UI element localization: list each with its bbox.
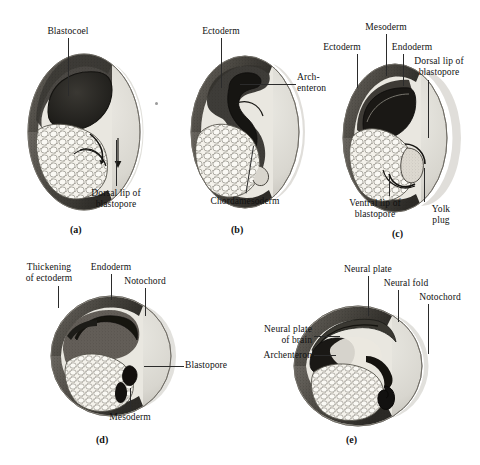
- leader-d-blastopore: [144, 366, 184, 367]
- leader-e-archenteron: [314, 355, 336, 356]
- leader-a-blastocoel: [68, 38, 69, 96]
- label-c-dorsal-lip: Dorsal lip of blastopore: [400, 56, 478, 77]
- embryo-drawing-e: [288, 302, 433, 432]
- leader-d-mesoderm: [130, 388, 131, 410]
- label-a-blastocoel: Blastocoel: [28, 26, 108, 37]
- label-d-endoderm: Endoderm: [80, 262, 142, 273]
- leader-e-neural-fold: [398, 290, 399, 322]
- panel-letter-a: (a): [70, 224, 82, 235]
- label-d-thickening-ectoderm: Thickening of ectoderm: [10, 262, 88, 283]
- label-c-endoderm: Endoderm: [383, 42, 441, 53]
- leader-b-ectoderm: [221, 38, 222, 88]
- leader-c-ectoderm: [357, 54, 358, 88]
- leader-c-mesoderm: [386, 34, 387, 76]
- leader-e-neural-plate: [368, 276, 369, 316]
- scan-artifact-dot: [155, 102, 158, 105]
- label-a-dorsal-lip: Dorsal lip of blastopore: [70, 188, 162, 209]
- panel-letter-d: (d): [96, 434, 108, 445]
- gastrulation-figure: Blastocoel Dorsal lip of blastopore (a): [0, 0, 480, 465]
- panel-letter-e: (e): [346, 434, 357, 445]
- panel-letter-b: (b): [231, 224, 243, 235]
- label-e-neural-plate-of-brain: Neural plate of brain: [230, 324, 312, 345]
- label-b-ectoderm: Ectoderm: [185, 26, 257, 37]
- label-c-ectoderm: Ectoderm: [313, 42, 371, 53]
- leader-a-dorsal-lip: [116, 140, 117, 186]
- label-e-notochord: Notochord: [406, 292, 474, 303]
- panel-letter-c: (c): [392, 228, 403, 239]
- label-c-mesoderm: Mesoderm: [355, 22, 417, 33]
- leader-d-notochord: [145, 288, 146, 316]
- label-e-neural-fold: Neural fold: [370, 278, 442, 289]
- leader-c-dorsal-lip: [428, 80, 429, 138]
- leader-b-archenteron: [240, 84, 296, 85]
- leader-d-thickening-ectoderm: [58, 286, 59, 308]
- leader-c-yolk-plug: [424, 168, 425, 202]
- embryo-drawing-c: [337, 58, 462, 218]
- leader-e-neural-plate-of-brain: [314, 336, 340, 337]
- label-e-neural-plate: Neural plate: [330, 264, 406, 275]
- embryo-drawing-b: [185, 48, 310, 213]
- label-d-blastopore: Blastopore: [185, 360, 247, 371]
- leader-c-ventral-lip: [389, 176, 390, 196]
- label-b-chordamesoderm: Chordamesoderm: [190, 196, 300, 207]
- leader-e-notochord: [428, 304, 429, 354]
- label-e-archenteron: Archenteron: [238, 350, 312, 361]
- label-d-notochord: Notochord: [110, 276, 180, 287]
- label-c-yolk-plug: Yolk plug: [421, 204, 461, 225]
- label-c-ventral-lip: Ventral lip of blastopore: [332, 198, 418, 219]
- embryo-drawing-d: [45, 292, 185, 422]
- label-d-mesoderm: Mesoderm: [98, 412, 162, 423]
